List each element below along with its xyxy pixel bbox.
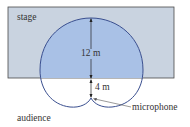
audience-label: audience [17,114,51,124]
microphone-label: microphone [132,103,177,113]
stage-label: stage [17,13,37,23]
back-distance-label: 4 m [95,83,110,93]
front-distance-label: 12 m [81,49,100,59]
